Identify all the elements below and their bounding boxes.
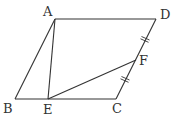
label-D: D bbox=[160, 7, 170, 22]
geometry-diagram: A D B E C F bbox=[0, 0, 177, 120]
label-F: F bbox=[139, 53, 148, 68]
label-B: B bbox=[3, 101, 13, 116]
label-E: E bbox=[43, 102, 53, 117]
label-A: A bbox=[42, 4, 53, 19]
segment-DC bbox=[116, 19, 156, 99]
label-C: C bbox=[112, 101, 122, 116]
